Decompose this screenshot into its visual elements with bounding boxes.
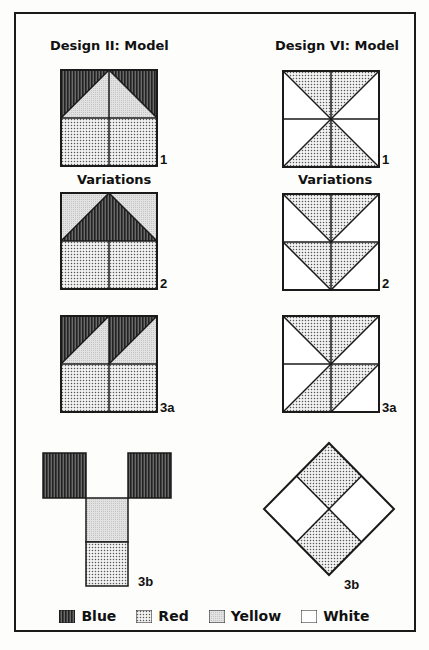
design-vi-variation-2: [283, 194, 379, 290]
label-ii-2: 2: [160, 276, 167, 291]
label-ii-3b: 3b: [138, 574, 153, 589]
label-vi-3a: 3a: [382, 400, 396, 415]
legend-item-red: Red: [136, 608, 188, 624]
design-ii-variation-3b: [43, 453, 173, 588]
design-vi-variation-3a: [283, 316, 379, 412]
design-vi-title: Design VI: Model: [275, 38, 399, 53]
label-ii-3a: 3a: [160, 400, 174, 415]
design-vi-variations-label: Variations: [298, 172, 372, 187]
legend: Blue Red Yellow White: [0, 608, 429, 624]
design-ii-variations-label: Variations: [77, 172, 151, 187]
legend-label-red: Red: [158, 608, 188, 624]
design-ii-variation-2: [61, 193, 157, 289]
design-ii-model: [61, 70, 157, 166]
red-swatch-icon: [136, 610, 152, 623]
design-vi-model: [283, 71, 379, 167]
blue-swatch-icon: [59, 610, 75, 623]
legend-label-white: White: [323, 608, 369, 624]
design-ii-title: Design II: Model: [50, 38, 169, 53]
label-vi-2: 2: [382, 276, 389, 291]
legend-item-blue: Blue: [59, 608, 116, 624]
design-ii-variation-3a: [61, 316, 157, 412]
label-vi-3b: 3b: [344, 577, 359, 592]
label-vi-1: 1: [382, 152, 389, 167]
label-ii-1: 1: [160, 152, 167, 167]
legend-item-yellow: Yellow: [209, 608, 282, 624]
white-swatch-icon: [301, 610, 317, 623]
legend-label-yellow: Yellow: [231, 608, 282, 624]
legend-item-white: White: [301, 608, 369, 624]
design-vi-variation-3b: [264, 443, 394, 575]
yellow-swatch-icon: [209, 610, 225, 623]
legend-label-blue: Blue: [81, 608, 116, 624]
